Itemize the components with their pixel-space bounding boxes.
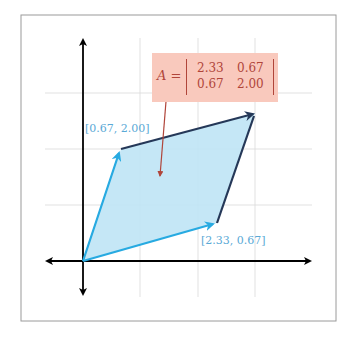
vector-v2-label: [2.33, 0.67]	[201, 234, 266, 247]
matrix-lhs: A =	[157, 68, 181, 83]
matrix-determinant-bars: 2.33 0.67 0.67 2.00	[186, 59, 274, 95]
vector-v1-label: [0.67, 2.00]	[85, 122, 150, 135]
matrix-cell-r2c1: 0.67	[197, 77, 224, 91]
matrix-cell-r1c1: 2.33	[197, 61, 224, 75]
parallelogram-diagram	[0, 0, 352, 339]
matrix-callout: A = 2.33 0.67 0.67 2.00	[152, 53, 278, 102]
matrix-cell-r2c2: 2.00	[237, 77, 264, 91]
matrix-cell-r1c2: 0.67	[237, 61, 264, 75]
